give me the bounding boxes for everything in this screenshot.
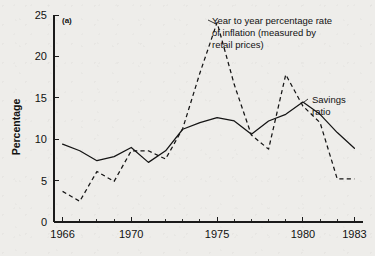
y-tick-label: 25 [35, 9, 47, 21]
savings-annotation-line-2: ratio [312, 106, 330, 117]
panel-label: (a) [62, 16, 72, 25]
inflation-savings-chart: 0510152025 19661970197519801983 Percenta… [0, 0, 375, 256]
y-axis-title: Percentage [10, 99, 22, 156]
savings-annotation-line-1: Savings [312, 94, 346, 105]
x-tick-label: 1966 [50, 228, 74, 240]
inflation-annotation: Year to year percentage rate of inflatio… [212, 15, 332, 50]
x-tick-label: 1980 [291, 228, 315, 240]
savings-leader-line [303, 99, 308, 103]
savings-annotation: Savings ratio [312, 94, 346, 117]
y-axis-tick-labels: 0510152025 [35, 9, 47, 228]
x-axis-ticks [63, 217, 355, 222]
inflation-annotation-line-2: of inflation (measured by [212, 27, 316, 38]
inflation-annotation-line-3: retail prices) [212, 39, 264, 50]
savings-ratio-line [63, 102, 355, 162]
y-tick-label: 0 [41, 216, 47, 228]
inflation-annotation-line-1: Year to year percentage rate [212, 15, 332, 26]
inflation-rate-line [63, 22, 355, 201]
y-tick-label: 10 [35, 133, 47, 145]
y-tick-label: 5 [41, 175, 47, 187]
y-tick-label: 20 [35, 50, 47, 62]
y-tick-label: 15 [35, 92, 47, 104]
x-tick-label: 1983 [342, 228, 366, 240]
x-axis-tick-labels: 19661970197519801983 [50, 228, 366, 240]
y-axis-ticks [54, 15, 59, 222]
chart-canvas: 0510152025 19661970197519801983 Percenta… [0, 0, 375, 256]
x-tick-label: 1970 [119, 228, 143, 240]
x-tick-label: 1975 [205, 228, 229, 240]
